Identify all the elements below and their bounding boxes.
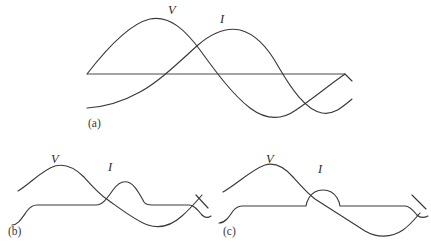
current-curve-b: [12, 182, 202, 225]
crossing-tail-b-upper: [196, 195, 208, 208]
panel-a: V I (a): [0, 0, 431, 138]
panel-c-plot: [215, 138, 431, 252]
current-label-a: I: [220, 13, 224, 26]
panel-c: V I (c): [215, 138, 431, 252]
panel-b-plot: [0, 138, 215, 252]
current-curve-c: [219, 190, 417, 223]
panel-caption-a: (a): [88, 118, 101, 130]
panel-b: V I (b): [0, 138, 215, 252]
crossing-tail-b-lower: [202, 215, 211, 217]
voltage-label-b: V: [51, 153, 59, 166]
voltage-curve-b: [18, 165, 202, 226]
current-label-c: I: [318, 163, 322, 176]
current-label-b: I: [108, 161, 112, 174]
panel-a-plot: [0, 0, 431, 138]
current-curve-a-tail: [345, 74, 352, 81]
waveform-figure: V I (a) V I (b) V I (c: [0, 0, 431, 252]
current-curve-a: [87, 29, 352, 113]
panel-caption-c: (c): [223, 226, 236, 238]
panel-caption-b: (b): [8, 226, 21, 238]
voltage-label-a: V: [168, 4, 176, 17]
crossing-tail-c-upper: [412, 195, 426, 209]
voltage-label-c: V: [266, 153, 274, 166]
